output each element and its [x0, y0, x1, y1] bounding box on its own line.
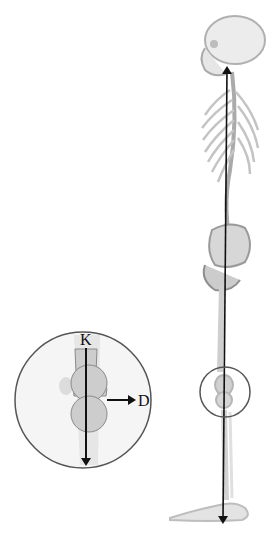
skull	[202, 16, 266, 75]
inset-tibial-plateau	[71, 396, 107, 432]
skeleton	[170, 16, 265, 521]
diagram-canvas: K D	[0, 0, 272, 553]
label-d: D	[138, 392, 150, 409]
foot	[170, 503, 248, 521]
pelvis	[204, 224, 250, 290]
fibula	[230, 412, 232, 498]
label-k: K	[80, 331, 92, 348]
knee-inset: K D	[15, 331, 151, 468]
femur	[220, 285, 222, 372]
